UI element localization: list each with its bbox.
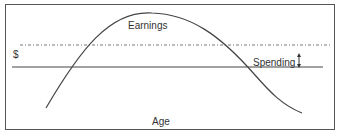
- age-axis-label: Age: [152, 117, 170, 127]
- earnings-label: Earnings: [128, 21, 167, 31]
- double-arrow-icon: [297, 53, 301, 68]
- dollar-axis-label: $: [13, 50, 19, 60]
- diagram-canvas: [0, 0, 343, 140]
- spending-label: Spending: [253, 58, 295, 68]
